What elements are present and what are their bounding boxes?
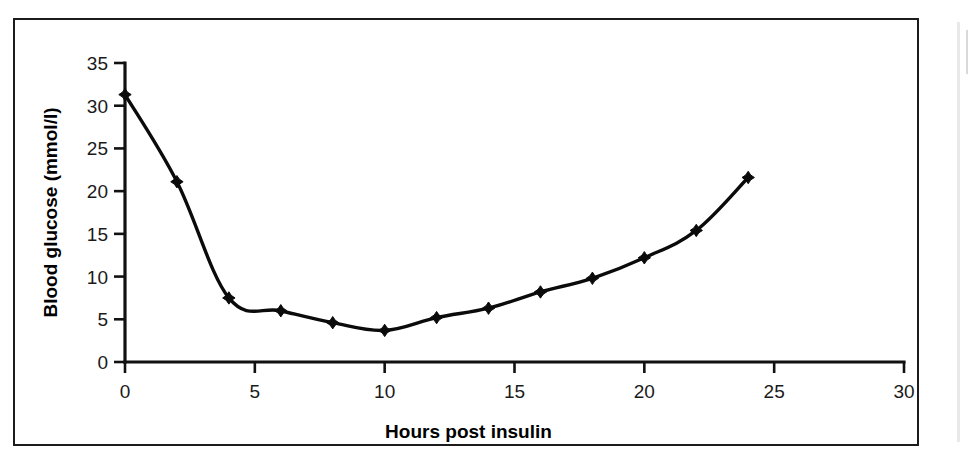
y-axis-title: Blood glucose (mmol/l) [40,107,61,317]
x-tick-label: 30 [893,381,914,402]
data-point-marker [586,272,598,284]
figure-frame: 05101520253035 051015202530 Hours post i… [13,18,919,446]
y-tick-label: 35 [87,53,108,74]
series-line [125,95,748,331]
data-point-marker [534,286,546,298]
chart-plot-area: 05101520253035 051015202530 Hours post i… [15,20,921,448]
data-point-marker [430,311,442,323]
y-tick-label: 5 [97,309,108,330]
x-axis-title: Hours post insulin [385,421,552,442]
y-tick-label: 10 [87,267,108,288]
data-point-marker [171,176,183,188]
line-chart: 05101520253035 051015202530 Hours post i… [15,20,921,448]
y-tick-label: 20 [87,181,108,202]
data-series-blood-glucose [119,88,755,336]
y-tick-label: 15 [87,224,108,245]
data-point-marker [482,302,494,314]
x-axis: 051015202530 [120,362,915,402]
x-tick-label: 15 [504,381,525,402]
x-tick-label: 5 [250,381,261,402]
x-tick-label: 10 [374,381,395,402]
data-point-marker [638,252,650,264]
y-tick-label: 0 [97,352,108,373]
data-point-marker [378,324,390,336]
y-axis: 05101520253035 [87,53,125,373]
page-edge-artifact-secondary [966,30,968,74]
x-tick-label: 25 [764,381,785,402]
data-point-marker [327,317,339,329]
axis-titles: Hours post insulinBlood glucose (mmol/l) [40,107,552,442]
x-tick-label: 0 [120,381,131,402]
data-point-marker [275,305,287,317]
x-tick-label: 20 [634,381,655,402]
page-edge-artifact [957,22,960,442]
screenshot-page: 05101520253035 051015202530 Hours post i… [0,0,972,468]
y-tick-label: 30 [87,96,108,117]
y-tick-label: 25 [87,138,108,159]
